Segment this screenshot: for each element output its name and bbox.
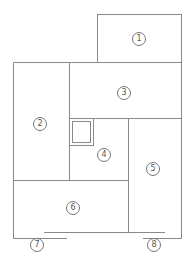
room-label-4: 4 — [97, 148, 111, 162]
room-label-1: 1 — [132, 32, 146, 46]
room-label-6: 6 — [66, 201, 80, 215]
room-label-5: 5 — [146, 162, 160, 176]
room-label-8: 8 — [147, 238, 161, 252]
room-label-3: 3 — [117, 86, 131, 100]
closet-inner — [73, 122, 91, 143]
closet-outer — [70, 119, 94, 146]
room-label-2: 2 — [33, 117, 47, 131]
room-label-7: 7 — [30, 238, 44, 252]
floor-plan-drawing — [0, 0, 191, 264]
